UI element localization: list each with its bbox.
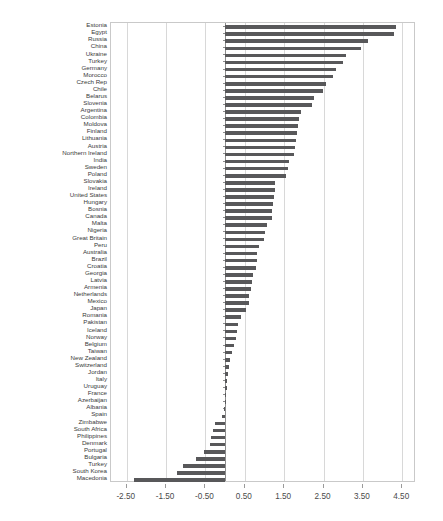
bar-row[interactable]: [111, 391, 414, 398]
bar-row[interactable]: [111, 157, 414, 164]
bar[interactable]: [225, 153, 294, 157]
bar-row[interactable]: [111, 172, 414, 179]
bar[interactable]: [225, 181, 275, 185]
bar[interactable]: [225, 61, 343, 65]
bar-row[interactable]: [111, 129, 414, 136]
bar[interactable]: [224, 407, 225, 411]
bar[interactable]: [225, 167, 288, 171]
bar[interactable]: [225, 209, 272, 213]
bar[interactable]: [225, 351, 232, 355]
bar[interactable]: [213, 429, 225, 433]
bar[interactable]: [225, 110, 301, 114]
bar[interactable]: [225, 68, 336, 72]
bar-row[interactable]: [111, 306, 414, 313]
bar-row[interactable]: [111, 292, 414, 299]
bar-row[interactable]: [111, 271, 414, 278]
bar-row[interactable]: [111, 186, 414, 193]
bar[interactable]: [225, 117, 299, 121]
bar-row[interactable]: [111, 412, 414, 419]
bar[interactable]: [225, 379, 227, 383]
bar-row[interactable]: [111, 476, 414, 483]
bar-row[interactable]: [111, 122, 414, 129]
bar-row[interactable]: [111, 51, 414, 58]
bar-row[interactable]: [111, 101, 414, 108]
bar[interactable]: [225, 25, 395, 29]
bar[interactable]: [225, 238, 264, 242]
bar[interactable]: [225, 202, 273, 206]
bar-row[interactable]: [111, 278, 414, 285]
bar[interactable]: [225, 280, 252, 284]
bar-row[interactable]: [111, 441, 414, 448]
bar-row[interactable]: [111, 285, 414, 292]
bar-row[interactable]: [111, 433, 414, 440]
bar[interactable]: [225, 330, 236, 334]
bar[interactable]: [225, 96, 314, 100]
bar[interactable]: [222, 415, 226, 419]
bar-row[interactable]: [111, 462, 414, 469]
bar[interactable]: [225, 266, 256, 270]
bar[interactable]: [183, 464, 225, 468]
bar[interactable]: [225, 231, 265, 235]
bar[interactable]: [196, 457, 225, 461]
bar-row[interactable]: [111, 58, 414, 65]
bar-row[interactable]: [111, 370, 414, 377]
bar-row[interactable]: [111, 242, 414, 249]
bar-row[interactable]: [111, 384, 414, 391]
bar[interactable]: [225, 337, 236, 341]
bar[interactable]: [225, 54, 345, 58]
bar-row[interactable]: [111, 94, 414, 101]
bar-row[interactable]: [111, 299, 414, 306]
bar-row[interactable]: [111, 115, 414, 122]
bar[interactable]: [225, 393, 226, 397]
bar-row[interactable]: [111, 455, 414, 462]
bar-row[interactable]: [111, 150, 414, 157]
bar[interactable]: [225, 174, 286, 178]
bar-row[interactable]: [111, 327, 414, 334]
bar[interactable]: [204, 450, 225, 454]
bar[interactable]: [210, 443, 225, 447]
bar-row[interactable]: [111, 349, 414, 356]
bar-row[interactable]: [111, 23, 414, 30]
bar[interactable]: [215, 422, 225, 426]
bar-row[interactable]: [111, 143, 414, 150]
bar[interactable]: [225, 301, 249, 305]
bar[interactable]: [225, 365, 229, 369]
bar-row[interactable]: [111, 80, 414, 87]
bar[interactable]: [225, 146, 295, 150]
bar[interactable]: [225, 160, 289, 164]
bar[interactable]: [225, 216, 271, 220]
bar[interactable]: [225, 103, 312, 107]
bar-row[interactable]: [111, 320, 414, 327]
bar-row[interactable]: [111, 221, 414, 228]
bar-row[interactable]: [111, 73, 414, 80]
bar[interactable]: [225, 32, 393, 36]
bar[interactable]: [225, 75, 332, 79]
bar-row[interactable]: [111, 228, 414, 235]
bar-row[interactable]: [111, 235, 414, 242]
bar-row[interactable]: [111, 65, 414, 72]
bar[interactable]: [225, 315, 241, 319]
bar[interactable]: [225, 188, 275, 192]
bar-row[interactable]: [111, 426, 414, 433]
bar[interactable]: [225, 252, 257, 256]
bar-row[interactable]: [111, 200, 414, 207]
bar[interactable]: [225, 195, 274, 199]
bar-row[interactable]: [111, 207, 414, 214]
bar[interactable]: [225, 308, 245, 312]
bar-row[interactable]: [111, 341, 414, 348]
bar-row[interactable]: [111, 257, 414, 264]
bar-row[interactable]: [111, 405, 414, 412]
bar-row[interactable]: [111, 30, 414, 37]
bar[interactable]: [211, 436, 225, 440]
bar-row[interactable]: [111, 334, 414, 341]
bar-row[interactable]: [111, 448, 414, 455]
bar-row[interactable]: [111, 136, 414, 143]
bar[interactable]: [225, 259, 256, 263]
bar[interactable]: [225, 139, 296, 143]
bar[interactable]: [225, 372, 228, 376]
bar-row[interactable]: [111, 249, 414, 256]
bar-row[interactable]: [111, 419, 414, 426]
bar-row[interactable]: [111, 398, 414, 405]
bar-row[interactable]: [111, 356, 414, 363]
bar[interactable]: [225, 344, 234, 348]
